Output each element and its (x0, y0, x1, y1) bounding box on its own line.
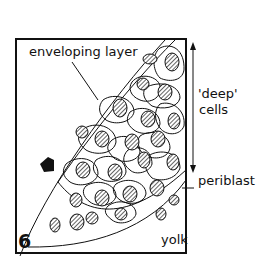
label-periblast: periblast (198, 174, 255, 188)
label-deep: 'deep' (198, 87, 238, 101)
label-cells: cells (199, 103, 228, 117)
enveloping-layer-pointer (72, 62, 98, 100)
label-enveloping-layer: enveloping layer (29, 45, 138, 59)
black-arrow-icon (40, 157, 54, 172)
panel-number: 6 (18, 231, 31, 251)
deep-cells-range-arrow (190, 42, 196, 173)
label-yolk: yolk (161, 233, 188, 247)
embryo-diagram (0, 0, 260, 271)
hatched-nuclei (50, 53, 180, 232)
